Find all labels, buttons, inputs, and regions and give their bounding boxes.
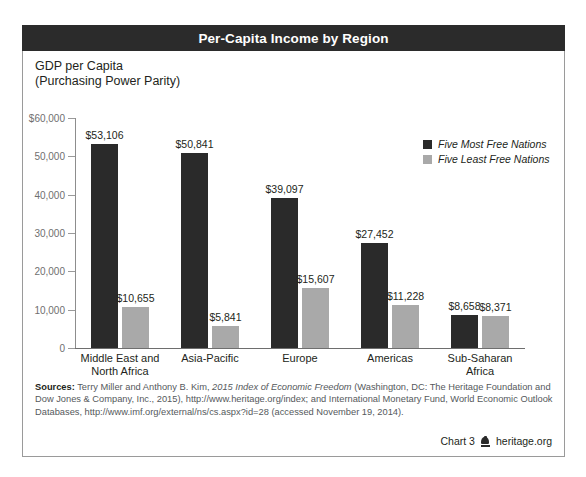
- y-axis-tick: [68, 156, 75, 157]
- bar: $50,841: [181, 153, 208, 348]
- y-axis-line: [75, 118, 76, 348]
- x-axis-category-label: Middle East andNorth Africa: [75, 352, 165, 378]
- bar-value-label: $8,371: [479, 301, 511, 313]
- y-axis-tick: [68, 118, 75, 119]
- sources-text-1: Terry Miller and Anthony B. Kim,: [75, 382, 212, 392]
- bar-value-label: $8,658: [448, 300, 480, 312]
- bar-value-label: $10,655: [117, 292, 155, 304]
- bar-group: $8,658$8,371: [451, 118, 509, 348]
- bar-value-label: $5,841: [209, 311, 241, 323]
- bar: $10,655: [122, 307, 149, 348]
- y-axis-label: 20,000: [34, 266, 65, 277]
- y-axis-label: 40,000: [34, 189, 65, 200]
- bar: $5,841: [212, 326, 239, 348]
- y-axis-label: 50,000: [34, 151, 65, 162]
- y-axis-tick: [68, 195, 75, 196]
- y-axis-label: 0: [59, 343, 65, 354]
- bar-group: $27,452$11,228: [361, 118, 419, 348]
- bar: $8,658: [451, 315, 478, 348]
- sources-italic-title: 2015 Index of Economic Freedom: [212, 382, 352, 392]
- y-axis-tick: [68, 271, 75, 272]
- y-axis-tick: [68, 348, 75, 349]
- bar-group: $50,841$5,841: [181, 118, 239, 348]
- bar: $11,228: [392, 305, 419, 348]
- bar: $15,607: [302, 288, 329, 348]
- y-axis-label: $60,000: [29, 113, 65, 124]
- heritage-bell-logo-icon: [481, 436, 490, 447]
- bar-value-label: $53,106: [86, 129, 124, 141]
- chart-footer: Chart 3 heritage.org: [441, 435, 552, 447]
- plot-area: $60,00050,00040,00030,00020,00010,0000$5…: [75, 118, 525, 348]
- chart-title-bar: Per-Capita Income by Region: [22, 25, 565, 51]
- bar-value-label: $15,607: [297, 273, 335, 285]
- bar-group: $39,097$15,607: [271, 118, 329, 348]
- bar-value-label: $39,097: [266, 183, 304, 195]
- y-axis-tick: [68, 310, 75, 311]
- bar-group: $53,106$10,655: [91, 118, 149, 348]
- bar-value-label: $50,841: [176, 138, 214, 150]
- sources-note: Sources: Terry Miller and Anthony B. Kim…: [35, 381, 555, 418]
- footer-site: heritage.org: [496, 435, 552, 447]
- bar: $39,097: [271, 198, 298, 348]
- subtitle-line-1: GDP per Capita: [35, 59, 180, 74]
- y-axis-label: 30,000: [34, 228, 65, 239]
- x-axis-category-label: Sub-SaharanAfrica: [435, 352, 525, 378]
- x-axis-category-label: Europe: [255, 352, 345, 365]
- chart-subtitle: GDP per Capita (Purchasing Power Parity): [35, 59, 180, 89]
- x-axis-category-label: Asia-Pacific: [165, 352, 255, 365]
- x-axis-line: [75, 348, 525, 349]
- bar-value-label: $27,452: [356, 228, 394, 240]
- chart-number: Chart 3: [441, 435, 475, 447]
- bar: $27,452: [361, 243, 388, 348]
- bar: $8,371: [482, 316, 509, 348]
- chart-card: Per-Capita Income by Region GDP per Capi…: [22, 25, 565, 457]
- x-axis-category-label: Americas: [345, 352, 435, 365]
- subtitle-line-2: (Purchasing Power Parity): [35, 74, 180, 89]
- y-axis-label: 10,000: [34, 304, 65, 315]
- bar: $53,106: [91, 144, 118, 348]
- y-axis-tick: [68, 233, 75, 234]
- sources-label: Sources:: [35, 382, 75, 392]
- page-title: Per-Capita Income by Region: [198, 31, 388, 46]
- bar-value-label: $11,228: [387, 290, 424, 302]
